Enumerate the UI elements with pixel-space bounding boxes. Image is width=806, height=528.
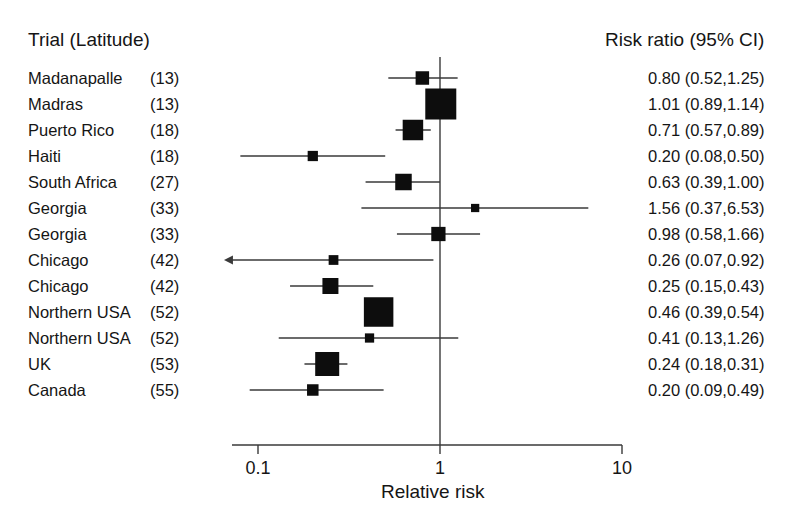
effect-estimate-marker	[425, 89, 456, 120]
effect-estimate-marker	[364, 297, 394, 327]
forest-plot-graphic: 0.1110	[0, 0, 806, 528]
effect-estimate-marker	[315, 352, 339, 376]
forest-plot: Trial (Latitude) Risk ratio (95% CI) Mad…	[0, 0, 806, 528]
effect-estimate-marker	[322, 278, 338, 294]
x-axis-title: Relative risk	[381, 482, 484, 501]
x-axis-tick-label: 1	[435, 458, 445, 478]
effect-estimate-marker	[403, 120, 424, 141]
effect-estimate-marker	[431, 227, 445, 241]
effect-estimate-marker	[365, 333, 374, 342]
x-axis-tick-label: 0.1	[245, 458, 270, 478]
effect-estimate-marker	[307, 384, 319, 396]
x-axis-tick-label: 10	[612, 458, 632, 478]
effect-estimate-marker	[329, 255, 339, 265]
effect-estimate-marker	[308, 151, 318, 161]
effect-estimate-marker	[471, 204, 479, 212]
effect-estimate-marker	[416, 71, 430, 85]
effect-estimate-marker	[395, 174, 412, 191]
